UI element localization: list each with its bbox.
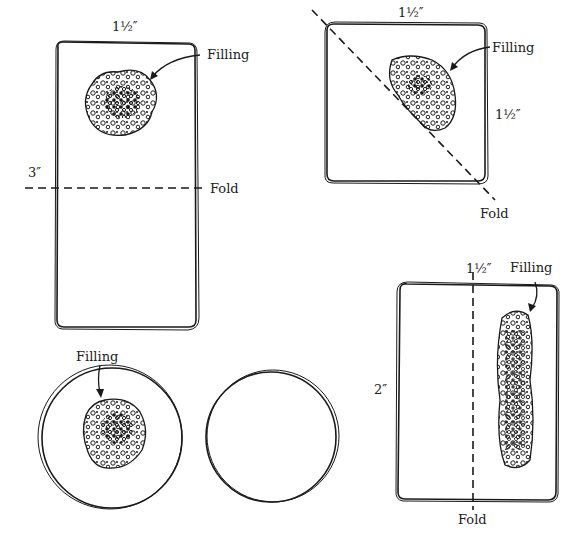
- dough-rectangle-outline: [398, 284, 557, 500]
- circle-filled-panel: [38, 365, 182, 509]
- square-width-label: 1½″: [398, 6, 424, 19]
- fold-label: Fold: [210, 182, 239, 195]
- filling-label: Filling: [492, 41, 534, 54]
- square-panel: [312, 10, 495, 200]
- rectangle-3in-panel: [25, 41, 207, 330]
- square-height-label: 1½″: [495, 108, 521, 121]
- filling-arrow: [99, 365, 101, 393]
- diagram-canvas: [0, 0, 580, 543]
- rectangle-2in-panel: [396, 272, 559, 510]
- filling-label: Filling: [510, 261, 552, 274]
- filling-label: Filling: [76, 350, 118, 363]
- rectangle-height-label: 2″: [374, 383, 387, 396]
- rectangle-width-label: 1½″: [112, 20, 138, 33]
- filling-arrow: [152, 55, 200, 77]
- circle-top-panel: [206, 370, 339, 502]
- fold-label: Fold: [458, 513, 487, 526]
- fold-line-diagonal: [312, 10, 495, 200]
- filling-label: Filling: [207, 48, 249, 61]
- rectangle-width-label: 1½″: [466, 262, 492, 275]
- rectangle-height-label: 3″: [28, 166, 41, 179]
- fold-label: Fold: [480, 207, 509, 220]
